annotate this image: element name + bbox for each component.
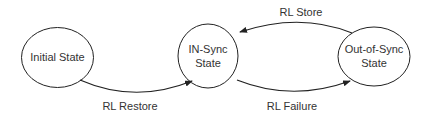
state-in-sync-label-line2: State bbox=[195, 57, 221, 69]
arrow-rl-failure bbox=[237, 80, 350, 91]
state-out-of-sync-label-line1: Out-of-Sync bbox=[345, 43, 404, 55]
state-initial-label: Initial State bbox=[30, 51, 84, 63]
transition-rl-restore: RL Restore bbox=[80, 80, 192, 112]
transition-rl-failure: RL Failure bbox=[237, 80, 350, 112]
arrow-rl-store bbox=[240, 22, 352, 33]
state-in-sync-ellipse bbox=[178, 24, 238, 88]
state-out-of-sync-label-line2: State bbox=[361, 57, 387, 69]
state-diagram: Initial State IN-Sync State Out-of-Sync … bbox=[0, 0, 427, 117]
state-in-sync: IN-Sync State bbox=[178, 24, 238, 88]
label-rl-failure: RL Failure bbox=[267, 100, 317, 112]
label-rl-restore: RL Restore bbox=[102, 100, 157, 112]
arrow-rl-restore bbox=[80, 80, 192, 92]
transition-rl-store: RL Store bbox=[240, 6, 352, 33]
state-out-of-sync: Out-of-Sync State bbox=[338, 27, 410, 86]
label-rl-store: RL Store bbox=[279, 6, 322, 18]
state-initial: Initial State bbox=[22, 28, 94, 88]
state-in-sync-label-line1: IN-Sync bbox=[188, 43, 228, 55]
